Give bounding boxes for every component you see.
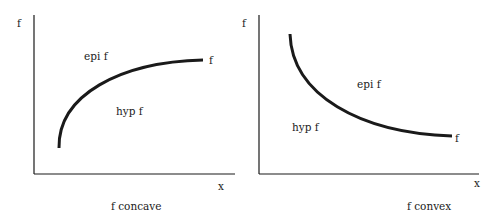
curve-label: f (455, 132, 460, 144)
concave-curve (59, 60, 203, 148)
hypograph-label: hyp f (116, 105, 144, 117)
y-axis-label: f (242, 17, 247, 29)
panel-convex: f f epi f hyp f x f convex (242, 15, 480, 212)
x-axis-label: x (218, 180, 224, 192)
curve-label: f (209, 54, 214, 66)
hypograph-label: hyp f (292, 121, 320, 133)
y-axis-label: f (17, 17, 22, 29)
diagram-canvas: f f epi f hyp f x f concave f f epi f hy… (0, 0, 497, 224)
epigraph-label: epi f (357, 78, 382, 90)
panel-caption: f convex (407, 200, 451, 212)
panel-concave: f f epi f hyp f x f concave (17, 15, 235, 212)
epigraph-label: epi f (84, 50, 109, 62)
x-axis-label: x (474, 177, 480, 189)
panel-caption: f concave (111, 200, 161, 212)
